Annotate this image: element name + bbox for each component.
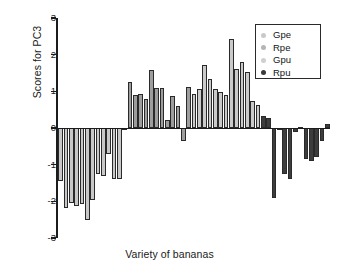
bar — [154, 88, 158, 128]
bar — [197, 89, 201, 128]
bar — [74, 128, 78, 206]
bar — [85, 128, 89, 220]
bar — [314, 128, 318, 157]
bar — [106, 128, 110, 154]
bar — [133, 95, 137, 128]
bar — [320, 128, 324, 141]
y-tick-label: 0 — [34, 122, 56, 133]
bar — [256, 105, 260, 128]
bar — [218, 92, 222, 128]
bar — [240, 62, 244, 128]
y-tick-label: -3 — [34, 232, 56, 243]
bar — [69, 128, 73, 203]
bar — [192, 94, 196, 128]
pca-scores-bar-chart: Scores for PC3 3210-1-2-3 GpeRpeGpuRpu V… — [0, 0, 339, 274]
y-axis-ticks: 3210-1-2-3 — [0, 0, 56, 274]
bar — [186, 87, 190, 128]
legend-marker-dot-icon — [261, 45, 266, 50]
x-axis-label: Variety of bananas — [0, 248, 339, 260]
bar — [288, 128, 292, 179]
legend-label: Gpe — [273, 30, 291, 40]
bar — [101, 128, 105, 176]
bar — [282, 128, 286, 174]
bar — [80, 128, 84, 204]
bar — [208, 79, 212, 128]
y-tick-label: 1 — [34, 85, 56, 96]
bar — [202, 65, 206, 128]
legend-marker-dot-icon — [261, 33, 266, 38]
bar — [224, 95, 228, 128]
bar — [112, 128, 116, 179]
bar — [309, 128, 313, 161]
bar — [250, 101, 254, 128]
bar — [160, 88, 164, 128]
bar — [272, 128, 276, 198]
legend-item: Gpe — [261, 29, 320, 41]
y-tick-label: 2 — [34, 49, 56, 60]
bar — [138, 94, 142, 128]
legend-label: Gpu — [273, 55, 291, 65]
bar — [96, 128, 100, 174]
legend-marker-dot-icon — [261, 58, 266, 63]
bar — [266, 118, 270, 128]
bar — [261, 116, 265, 128]
bar — [144, 99, 148, 128]
bar — [128, 82, 132, 128]
legend: GpeRpeGpuRpu — [255, 24, 321, 79]
bar — [117, 128, 121, 179]
bar — [176, 106, 180, 128]
bar — [304, 128, 308, 159]
bar — [90, 128, 94, 200]
legend-label: Rpu — [273, 68, 290, 78]
legend-item: Gpu — [261, 54, 320, 66]
y-tick-label: 3 — [34, 12, 56, 23]
legend-label: Rpe — [273, 43, 290, 53]
bar — [64, 128, 68, 208]
legend-item: Rpe — [261, 42, 320, 54]
bar — [213, 89, 217, 128]
legend-marker-dot-icon — [261, 70, 266, 75]
bar — [234, 69, 238, 128]
y-tick-label: -2 — [34, 195, 56, 206]
legend-item: Rpu — [261, 67, 320, 79]
bar — [170, 96, 174, 128]
bar — [58, 128, 62, 181]
bar — [181, 128, 185, 141]
bar — [149, 70, 153, 128]
zero-baseline — [58, 128, 330, 129]
bar — [229, 39, 233, 128]
y-tick-label: -1 — [34, 159, 56, 170]
bar — [245, 72, 249, 128]
